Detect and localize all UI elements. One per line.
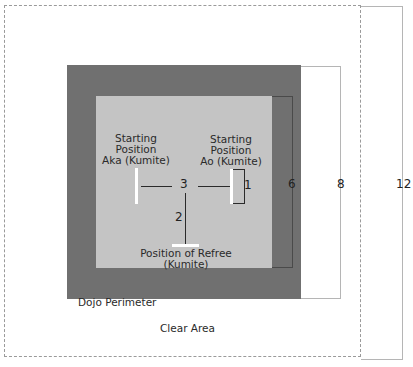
- ao-label-line3: Ao (Kumite): [196, 156, 266, 167]
- dimension-label-6: 6: [288, 177, 296, 191]
- referee-label-line2: (Kumite): [138, 259, 234, 270]
- distance-label-1: 1: [244, 178, 252, 192]
- dojo-perimeter-label: Dojo Perimeter: [78, 297, 156, 308]
- dimension-label-8: 8: [337, 177, 345, 191]
- aka-position-label: Starting Position Aka (Kumite): [100, 133, 172, 166]
- aka-label-line3: Aka (Kumite): [100, 155, 172, 166]
- dimension-bracket-8: [301, 66, 341, 299]
- aka-start-marker: [135, 168, 138, 204]
- distance-label-2: 2: [175, 210, 183, 224]
- ao-position-label: Starting Position Ao (Kumite): [196, 134, 266, 167]
- referee-position-label: Position of Refree (Kumite): [138, 248, 234, 270]
- dimension-label-12: 12: [396, 177, 411, 191]
- center-to-referee-line: [185, 193, 186, 245]
- aka-to-center-line: [141, 186, 172, 187]
- center-to-ao-line: [198, 186, 230, 187]
- distance-label-3: 3: [180, 177, 188, 191]
- clear-area-label: Clear Area: [160, 323, 215, 334]
